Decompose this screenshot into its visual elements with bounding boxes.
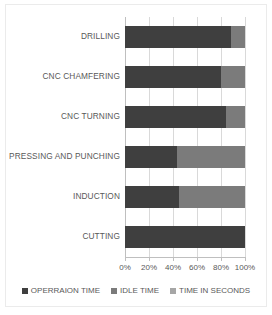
bar-row[interactable] bbox=[125, 226, 245, 248]
bar-segment[interactable] bbox=[231, 26, 245, 48]
chart-container: DRILLINGCNC CHAMFERINGCNC TURNINGPRESSIN… bbox=[5, 4, 267, 307]
legend-label: OPERRAION TIME bbox=[31, 286, 100, 295]
y-axis-label: PRESSING AND PUNCHING bbox=[2, 151, 120, 161]
y-axis-label: CUTTING bbox=[2, 231, 120, 241]
chart-legend: OPERRAION TIMEIDLE TIMETIME IN SECONDS bbox=[6, 286, 266, 295]
x-axis-tick-mark bbox=[173, 257, 174, 261]
x-axis-line bbox=[125, 257, 246, 258]
legend-swatch-icon bbox=[170, 288, 176, 294]
legend-item[interactable]: TIME IN SECONDS bbox=[170, 286, 250, 295]
bar-row[interactable] bbox=[125, 26, 245, 48]
gridline-80% bbox=[221, 17, 222, 257]
bar-row[interactable] bbox=[125, 186, 245, 208]
bar-segment[interactable] bbox=[125, 106, 226, 128]
y-axis-label: DRILLING bbox=[2, 31, 120, 41]
x-axis-tick-mark bbox=[197, 257, 198, 261]
bar-segment[interactable] bbox=[179, 186, 245, 208]
gridline-0% bbox=[125, 17, 126, 257]
bar-row[interactable] bbox=[125, 66, 245, 88]
gridline-60% bbox=[197, 17, 198, 257]
bar-row[interactable] bbox=[125, 146, 245, 168]
x-axis-tick-label: 100% bbox=[230, 263, 260, 272]
x-axis-tick-mark bbox=[221, 257, 222, 261]
bar-segment[interactable] bbox=[221, 66, 245, 88]
bar-row[interactable] bbox=[125, 106, 245, 128]
x-axis-tick-mark bbox=[245, 257, 246, 261]
legend-swatch-icon bbox=[22, 288, 28, 294]
x-axis-tick-mark bbox=[149, 257, 150, 261]
bar-segment[interactable] bbox=[177, 146, 245, 168]
y-axis-label: CNC CHAMFERING bbox=[2, 71, 120, 81]
bar-segment[interactable] bbox=[125, 66, 221, 88]
x-axis-tick-mark bbox=[125, 257, 126, 261]
plot-area bbox=[125, 17, 245, 257]
legend-label: IDLE TIME bbox=[120, 286, 159, 295]
legend-item[interactable]: OPERRAION TIME bbox=[22, 286, 100, 295]
legend-item[interactable]: IDLE TIME bbox=[111, 286, 159, 295]
gridline-20% bbox=[149, 17, 150, 257]
gridline-40% bbox=[173, 17, 174, 257]
gridline-100% bbox=[245, 17, 246, 257]
bar-segment[interactable] bbox=[125, 146, 177, 168]
y-axis-label: INDUCTION bbox=[2, 191, 120, 201]
bar-segment[interactable] bbox=[125, 226, 245, 248]
y-axis-label: CNC TURNING bbox=[2, 111, 120, 121]
legend-swatch-icon bbox=[111, 288, 117, 294]
bar-segment[interactable] bbox=[125, 26, 231, 48]
legend-label: TIME IN SECONDS bbox=[179, 286, 250, 295]
bar-segment[interactable] bbox=[125, 186, 179, 208]
y-axis-category-labels: DRILLINGCNC CHAMFERINGCNC TURNINGPRESSIN… bbox=[6, 17, 120, 257]
bar-segment[interactable] bbox=[226, 106, 245, 128]
